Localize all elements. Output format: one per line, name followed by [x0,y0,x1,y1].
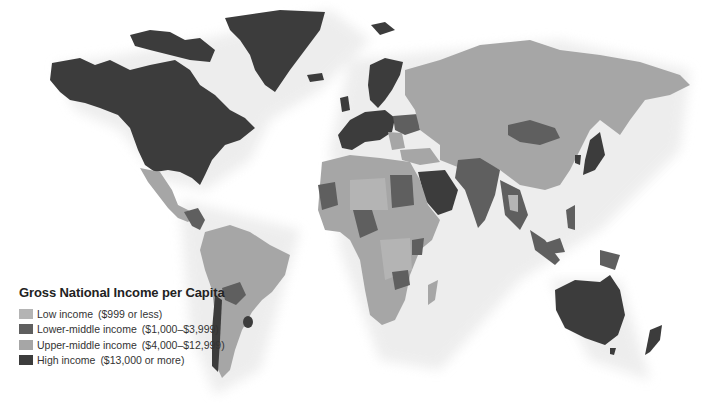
legend-range: ($13,000 or more) [100,354,184,366]
legend-item-high: High income ($13,000 or more) [19,353,225,369]
legend-range: ($1,000–$3,999) [142,323,219,335]
legend-title: Gross National Income per Capita [19,285,225,300]
swatch-upper-middle [19,340,33,350]
legend-range: ($4,000–$12,999) [142,339,225,351]
legend-label: Lower-middle income [37,323,137,335]
legend-label: Low income [37,308,93,320]
legend: Gross National Income per Capita Low inc… [19,285,225,368]
swatch-high [19,355,33,365]
legend-item-upper-middle: Upper-middle income ($4,000–$12,999) [19,337,225,353]
legend-label: Upper-middle income [37,339,137,351]
swatch-lower-middle [19,324,33,334]
legend-item-low: Low income ($999 or less) [19,306,225,322]
legend-label: High income [37,354,95,366]
swatch-low [19,309,33,319]
legend-range: ($999 or less) [98,308,162,320]
legend-item-lower-middle: Lower-middle income ($1,000–$3,999) [19,322,225,338]
